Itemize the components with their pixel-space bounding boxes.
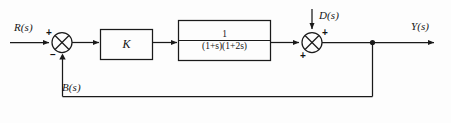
disturbance-signal-label: D(s)	[319, 9, 339, 21]
plant-denominator: (1+s)(1+2s)	[179, 41, 270, 51]
gain-block-label: K	[100, 37, 153, 52]
plant-numerator: 1	[179, 30, 270, 41]
disturbance-summer-plus-top-sign: +	[322, 28, 328, 38]
feedback-takeoff-dot	[370, 40, 375, 45]
feedback-signal-label: B(s)	[62, 81, 81, 93]
disturbance-summer-plus-bottom-sign: +	[300, 51, 306, 61]
error-summer-plus-sign: +	[46, 28, 52, 38]
reference-signal-label: R(s)	[14, 21, 33, 33]
block-diagram: R(s) D(s) Y(s) B(s) + – + + K 1 (1+s)(1+…	[0, 0, 451, 123]
feedback-arrowhead	[59, 53, 65, 59]
output-signal-label: Y(s)	[411, 20, 429, 32]
plant-transfer-function: 1 (1+s)(1+2s)	[179, 30, 270, 52]
error-summer-minus-sign: –	[50, 50, 56, 60]
diagram-canvas	[0, 0, 451, 123]
